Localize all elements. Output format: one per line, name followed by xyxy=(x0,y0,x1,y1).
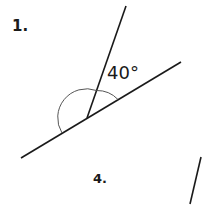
problem-number-4: 4. xyxy=(93,171,107,186)
problem-number-1: 1. xyxy=(12,17,28,35)
angle-label: 40° xyxy=(107,62,139,83)
angle-arc-obtuse xyxy=(58,89,97,133)
partial-line-problem-4 xyxy=(190,157,201,204)
angle-arc-40 xyxy=(97,90,119,99)
